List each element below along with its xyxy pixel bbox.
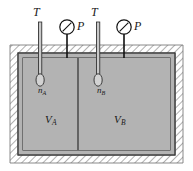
- label-moles-b-main: n: [97, 85, 102, 95]
- label-temperature-right: T: [91, 6, 98, 18]
- label-moles-chamber-b: nB: [97, 86, 105, 95]
- figure-root: T P T P nA nB VA VB: [0, 0, 193, 171]
- label-volume-chamber-b: VB: [114, 114, 125, 125]
- label-volume-b-main: V: [114, 113, 121, 125]
- label-pressure-left: P: [77, 20, 84, 32]
- label-pressure-right: P: [134, 20, 141, 32]
- label-volume-a-sub: A: [52, 118, 57, 127]
- label-moles-a-sub: A: [43, 90, 47, 96]
- label-volume-b-sub: B: [121, 118, 126, 127]
- label-volume-a-main: V: [45, 113, 52, 125]
- chamber-b-gas: [78, 58, 170, 150]
- label-volume-chamber-a: VA: [45, 114, 56, 125]
- label-temperature-left: T: [33, 6, 40, 18]
- label-moles-chamber-a: nA: [38, 86, 46, 95]
- label-moles-b-sub: B: [102, 90, 106, 96]
- thermometer-left-tube: [38, 22, 41, 78]
- thermometer-right-tube: [96, 22, 99, 78]
- chamber-a-gas: [23, 58, 78, 150]
- label-moles-a-main: n: [38, 85, 43, 95]
